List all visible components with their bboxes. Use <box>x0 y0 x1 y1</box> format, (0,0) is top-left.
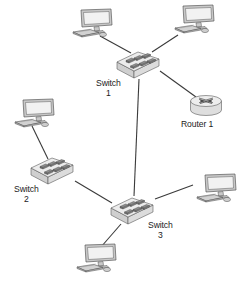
desktop-computer-icon[interactable] <box>72 243 118 277</box>
switch2-label: Switch2 <box>14 185 39 204</box>
desktop-computer-icon-glyph <box>170 4 216 38</box>
switch3-label: Switch3 <box>148 221 173 240</box>
device-nodes-layer: Switch1Router 1Switch2Switch3 <box>0 0 247 288</box>
network-switch-icon[interactable] <box>28 153 76 186</box>
desktop-computer-icon-glyph <box>72 243 118 277</box>
desktop-computer-icon-glyph <box>192 173 238 207</box>
desktop-computer-icon[interactable] <box>10 98 56 132</box>
switch1-label-line2: 1 <box>96 89 121 99</box>
network-router-icon[interactable] <box>189 93 223 119</box>
switch2-label-line2: 2 <box>14 195 39 205</box>
network-switch-icon-glyph <box>28 153 76 186</box>
switch1-label-line1: Switch <box>96 78 121 88</box>
switch3-label-line2: 3 <box>148 231 173 241</box>
desktop-computer-icon[interactable] <box>170 4 216 38</box>
desktop-computer-icon-glyph <box>68 8 114 42</box>
network-topology-diagram: Switch1Router 1Switch2Switch3 <box>0 0 247 288</box>
network-router-icon-glyph <box>189 93 223 119</box>
desktop-computer-icon[interactable] <box>192 173 238 207</box>
network-switch-icon-glyph <box>114 47 162 80</box>
switch3-label-line1: Switch <box>148 220 173 230</box>
switch2-label-line1: Switch <box>14 184 39 194</box>
router1-label: Router 1 <box>181 120 213 130</box>
switch1-label: Switch1 <box>96 79 121 98</box>
router1-label-line1: Router 1 <box>181 119 213 129</box>
network-switch-icon[interactable] <box>114 47 162 80</box>
desktop-computer-icon-glyph <box>10 98 56 132</box>
desktop-computer-icon[interactable] <box>68 8 114 42</box>
